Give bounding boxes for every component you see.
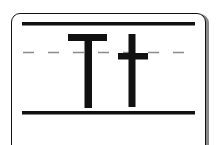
baseline-guide-line [22,111,195,115]
lowercase-t-glyph [118,34,148,107]
top-guide-line [22,22,195,26]
capital-t-glyph [68,34,107,108]
letter-case-tt-icon [0,0,222,145]
